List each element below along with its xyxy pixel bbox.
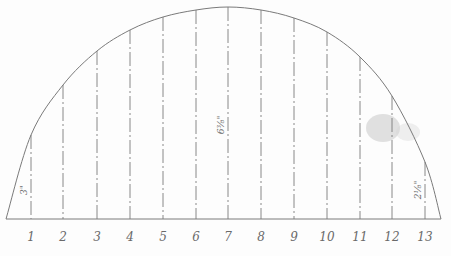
station-label-9: 9 [290, 230, 298, 244]
station-label-7: 7 [224, 230, 232, 244]
dimension-label-2: 6⅜" [216, 116, 226, 135]
station-label-10: 10 [319, 230, 335, 244]
arch-curve [6, 7, 441, 219]
dimension-label-1: 3" [19, 185, 29, 195]
station-label-5: 5 [159, 230, 167, 244]
station-label-4: 4 [125, 230, 134, 244]
dimension-labels: 3"6⅜"2⅛" [19, 116, 423, 201]
station-label-1: 1 [27, 230, 35, 244]
drawing-sheet: 12345678910111213 3"6⅜"2⅛" [0, 0, 451, 256]
paper-smudge-faint [396, 123, 420, 141]
station-label-6: 6 [192, 230, 200, 244]
station-label-2: 2 [58, 230, 67, 244]
station-label-12: 12 [384, 230, 399, 244]
station-lines [31, 7, 425, 219]
station-labels: 12345678910111213 [27, 230, 433, 244]
arch-drawing: 12345678910111213 3"6⅜"2⅛" [0, 0, 451, 256]
station-label-8: 8 [257, 230, 265, 244]
dimension-label-3: 2⅛" [413, 181, 423, 201]
station-label-11: 11 [352, 230, 367, 244]
station-label-13: 13 [417, 230, 433, 244]
station-label-3: 3 [93, 230, 101, 244]
paper-smudge [366, 114, 400, 142]
